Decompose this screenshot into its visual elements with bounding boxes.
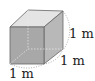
height-label: 1 m xyxy=(69,26,94,41)
width-label: 1 m xyxy=(9,66,34,81)
depth-label: 1 m xyxy=(60,53,85,68)
cube-front-face xyxy=(10,27,44,64)
cube-diagram: 1 m 1 m 1 m xyxy=(0,0,95,81)
